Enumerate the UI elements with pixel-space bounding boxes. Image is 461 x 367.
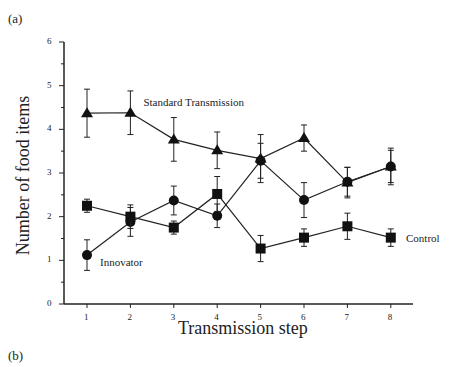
square-marker: [82, 201, 92, 211]
series-label: Control: [406, 232, 440, 244]
triangle-marker: [168, 133, 180, 143]
y-tick-label: 0: [47, 298, 52, 308]
square-marker: [299, 233, 309, 243]
circle-marker: [82, 250, 92, 260]
y-tick-label: 1: [47, 254, 52, 264]
x-tick-label: 1: [84, 312, 89, 322]
circle-marker: [212, 211, 222, 221]
x-axis-title: Transmission step: [178, 318, 308, 339]
square-marker: [342, 221, 352, 231]
triangle-marker: [124, 107, 136, 117]
y-tick-label: 2: [47, 211, 52, 221]
series-line: [87, 113, 391, 183]
x-tick-label: 3: [171, 312, 176, 322]
circle-marker: [386, 161, 396, 171]
y-tick-label: 3: [47, 167, 52, 177]
square-marker: [256, 244, 266, 254]
circle-marker: [342, 177, 352, 187]
circle-marker: [169, 196, 179, 206]
x-tick-label: 2: [127, 312, 132, 322]
square-marker: [125, 212, 135, 222]
x-tick-label: 8: [388, 312, 393, 322]
x-tick-label: 7: [344, 312, 349, 322]
triangle-marker: [298, 132, 310, 142]
series-label: Innovator: [100, 256, 143, 268]
circle-marker: [256, 156, 266, 166]
y-tick-label: 4: [47, 123, 52, 133]
y-axis-title: Number of food items: [13, 96, 34, 255]
circle-marker: [299, 195, 309, 205]
square-marker: [212, 189, 222, 199]
y-tick-label: 6: [47, 36, 52, 46]
y-tick-label: 5: [47, 80, 52, 90]
series-label: Standard Transmission: [143, 96, 244, 108]
square-marker: [169, 223, 179, 233]
square-marker: [386, 233, 396, 243]
triangle-marker: [81, 107, 93, 117]
